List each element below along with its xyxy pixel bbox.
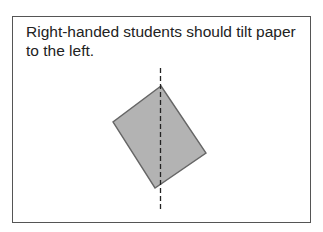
tilted-paper-shape [113, 86, 206, 188]
tilted-paper-figure [0, 0, 323, 232]
